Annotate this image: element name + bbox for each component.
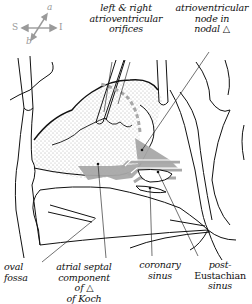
retractor-left bbox=[18, 56, 33, 111]
label-line: sinus bbox=[190, 281, 250, 292]
label-av-orifices: left & right atrioventricular orifices bbox=[84, 3, 168, 35]
label-line: post- bbox=[190, 260, 250, 271]
compass-inferior: I bbox=[59, 22, 63, 32]
label-coronary-sinus: coronary sinus bbox=[136, 260, 184, 281]
label-line: of Koch bbox=[52, 294, 116, 304]
compass-superior: S bbox=[12, 22, 18, 32]
eustachian-ridge bbox=[136, 186, 166, 193]
label-line: of △ bbox=[52, 283, 116, 294]
label-oval-fossa: oval fossa bbox=[0, 262, 46, 283]
label-line: sinus bbox=[136, 271, 184, 282]
label-line: orifices bbox=[84, 24, 168, 35]
label-line: left & right bbox=[84, 3, 168, 14]
label-line: nodal △ bbox=[172, 24, 252, 35]
label-atrial-septal-component: atrial septal component of △ of Koch bbox=[52, 262, 116, 304]
compass-anterior: a bbox=[47, 2, 52, 12]
label-line: atrioventricular bbox=[172, 3, 252, 14]
label-line: oval bbox=[4, 262, 46, 273]
label-av-node: atrioventricular node in nodal △ bbox=[172, 3, 252, 35]
label-line: coronary bbox=[136, 260, 184, 271]
coronary-sinus-orifice bbox=[138, 170, 172, 183]
label-post-eustachian-sinus: post- Eustachian sinus bbox=[190, 260, 250, 292]
label-line: fossa bbox=[4, 273, 46, 284]
orientation-compass: a S I b bbox=[14, 2, 66, 48]
compass-b: b bbox=[26, 36, 32, 46]
lower-outlines bbox=[33, 187, 210, 248]
label-line: atrial septal bbox=[52, 262, 116, 273]
